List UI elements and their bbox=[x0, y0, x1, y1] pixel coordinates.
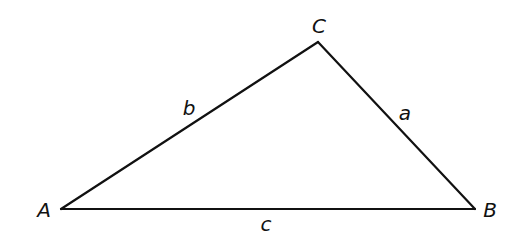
side-label-b: b bbox=[183, 96, 196, 120]
vertex-label-a: A bbox=[35, 198, 51, 222]
side-label-c: c bbox=[261, 212, 272, 236]
side-label-a: a bbox=[399, 101, 411, 125]
side-a-line bbox=[318, 42, 475, 209]
triangle-diagram: A B C a b c bbox=[0, 0, 515, 237]
vertex-label-c: C bbox=[312, 14, 326, 38]
vertex-label-b: B bbox=[483, 198, 497, 222]
side-b-line bbox=[61, 42, 318, 209]
